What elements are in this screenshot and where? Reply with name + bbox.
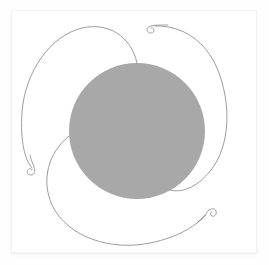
spiral-terminus-lower-left-icon [27, 155, 35, 175]
spiral-petal-figure [0, 0, 269, 265]
artboard [0, 0, 269, 265]
central-disc [69, 63, 205, 199]
